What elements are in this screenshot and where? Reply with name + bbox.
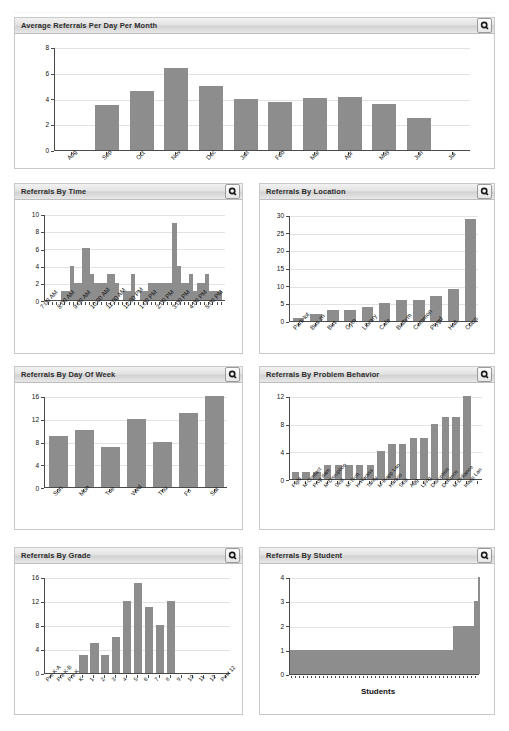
gridline bbox=[45, 397, 227, 398]
gridline bbox=[290, 627, 479, 628]
gridline bbox=[45, 578, 230, 579]
magnifier-icon[interactable] bbox=[477, 184, 492, 199]
gridline bbox=[290, 216, 478, 217]
chart-referrals-by-grade: 0 4 8 12 16 bbox=[15, 564, 244, 714]
top-left-artifact bbox=[4, 1, 7, 8]
panel-body: 0 2 4 6 8 10 bbox=[15, 200, 242, 353]
ytick-label: 8 bbox=[21, 623, 39, 630]
bar bbox=[145, 607, 154, 673]
plot-area bbox=[289, 216, 478, 322]
magnifier-icon[interactable] bbox=[477, 548, 492, 563]
xtick-label: Jun bbox=[413, 150, 424, 162]
bar bbox=[179, 413, 198, 487]
panel-title: Referrals By Day Of Week bbox=[21, 371, 115, 379]
ytick-label: 4 bbox=[25, 264, 39, 271]
panel-body: 0 2 4 6 8 bbox=[15, 34, 494, 168]
ytick-label: 10 bbox=[262, 283, 284, 290]
panel-title: Referrals By Student bbox=[266, 552, 342, 560]
bar bbox=[164, 68, 188, 150]
plot-area bbox=[289, 578, 479, 675]
plot-area bbox=[44, 397, 227, 488]
ytick-mark bbox=[51, 151, 54, 152]
bar bbox=[75, 430, 94, 487]
gridline bbox=[45, 249, 225, 250]
xtick-label: Jan bbox=[239, 150, 250, 162]
ytick-label: 8 bbox=[35, 45, 49, 52]
bar bbox=[199, 86, 223, 150]
bar bbox=[90, 643, 99, 673]
ytick-label: 0 bbox=[25, 298, 39, 305]
panel-referrals-by-day-of-week: Referrals By Day Of Week 0 4 8 12 16 bbox=[14, 366, 243, 530]
plot-area bbox=[44, 578, 230, 674]
ytick-label: 0 bbox=[266, 319, 284, 326]
bar bbox=[431, 424, 439, 479]
bar bbox=[448, 289, 460, 321]
xtick-label: Oct bbox=[135, 150, 146, 161]
bar bbox=[79, 655, 88, 673]
bar bbox=[134, 583, 143, 673]
ytick-mark bbox=[286, 322, 289, 323]
bar bbox=[410, 438, 418, 480]
panel-title: Average Referrals Per Day Per Month bbox=[21, 22, 157, 30]
panel-body: 0 4 8 12 16 bbox=[15, 383, 242, 529]
magnifier-icon[interactable] bbox=[225, 184, 240, 199]
ytick-label: 4 bbox=[266, 449, 284, 456]
ytick-label: 30 bbox=[262, 213, 284, 220]
gridline bbox=[290, 269, 478, 270]
bar bbox=[268, 102, 292, 150]
chart-referrals-by-problem-behavior: 0 4 8 12 bbox=[260, 383, 496, 529]
panel-body: 0 1 2 3 4 bbox=[260, 564, 494, 714]
ytick-mark bbox=[41, 674, 44, 675]
bar bbox=[127, 419, 146, 487]
panel-header: Referrals By Day Of Week bbox=[15, 367, 242, 383]
plot-area bbox=[54, 48, 470, 151]
ytick-label: 4 bbox=[21, 647, 39, 654]
bar bbox=[465, 219, 477, 322]
panel-header: Average Referrals Per Day Per Month bbox=[15, 18, 494, 34]
ytick-mark bbox=[41, 488, 44, 489]
magnifier-icon[interactable] bbox=[225, 548, 240, 563]
ytick-label: 1 bbox=[268, 648, 284, 655]
magnifier-icon[interactable] bbox=[477, 367, 492, 382]
ytick-label: 4 bbox=[35, 96, 49, 103]
ytick-label: 15 bbox=[262, 266, 284, 273]
panel-body: 0 4 8 12 bbox=[260, 383, 494, 529]
ytick-label: 4 bbox=[21, 462, 39, 469]
gridline bbox=[290, 578, 479, 579]
magnifier-icon[interactable] bbox=[225, 367, 240, 382]
ytick-mark bbox=[286, 675, 289, 676]
gridline bbox=[55, 74, 470, 75]
bar bbox=[338, 97, 362, 150]
ytick-label: 0 bbox=[21, 671, 39, 678]
step-segment bbox=[453, 626, 475, 675]
bar bbox=[49, 436, 68, 487]
panel-avg-referrals-per-day-per-month: Average Referrals Per Day Per Month 0 2 … bbox=[14, 17, 495, 169]
gridline bbox=[290, 397, 482, 398]
ytick-label: 12 bbox=[17, 599, 39, 606]
bar bbox=[234, 99, 258, 150]
ytick-label: 8 bbox=[25, 229, 39, 236]
magnifier-icon[interactable] bbox=[477, 18, 492, 33]
bar bbox=[101, 655, 110, 673]
ytick-label: 0 bbox=[21, 485, 39, 492]
xtick-label: Apr bbox=[343, 150, 354, 161]
panel-referrals-by-grade: Referrals By Grade 0 4 8 12 16 bbox=[14, 547, 243, 715]
ytick-label: 20 bbox=[262, 248, 284, 255]
step-segment bbox=[478, 577, 480, 674]
ytick-label: 8 bbox=[266, 422, 284, 429]
panel-title: Referrals By Location bbox=[266, 188, 346, 196]
chart-avg-referrals-per-day-per-month: 0 2 4 6 8 bbox=[15, 34, 496, 168]
ytick-label: 8 bbox=[21, 440, 39, 447]
bar bbox=[167, 601, 176, 673]
ytick-label: 2 bbox=[25, 281, 39, 288]
panel-header: Referrals By Problem Behavior bbox=[260, 367, 494, 383]
top-rule bbox=[14, 12, 495, 13]
xtick-label: 11 bbox=[198, 675, 206, 683]
ytick-label: 2 bbox=[268, 623, 284, 630]
gridline bbox=[290, 287, 478, 288]
ytick-label: 5 bbox=[266, 301, 284, 308]
gridline bbox=[45, 232, 225, 233]
panel-referrals-by-problem-behavior: Referrals By Problem Behavior 0 4 8 12 bbox=[259, 366, 495, 530]
gridline bbox=[55, 100, 470, 101]
dashboard-page: Average Referrals Per Day Per Month 0 2 … bbox=[0, 0, 509, 731]
